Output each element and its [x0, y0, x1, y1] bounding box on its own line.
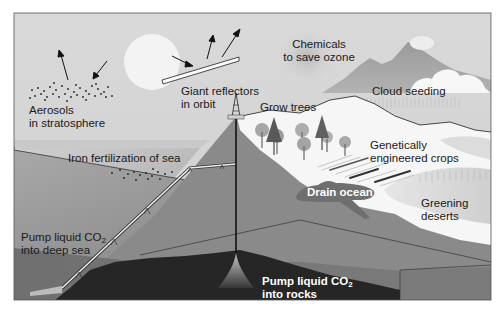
label-pump-rocks: Pump liquid CO2 into rocks: [262, 275, 353, 301]
label-pump-deep-sea: Pump liquid CO2 into deep sea: [21, 231, 106, 257]
label-ozone-chemicals: Chemicals to save ozone: [272, 38, 366, 64]
label-giant-reflectors: Giant reflectors in orbit: [181, 85, 259, 111]
label-greening-deserts: Greening deserts: [421, 197, 468, 223]
label-gm-crops: Genetically engineered crops: [370, 139, 459, 165]
label-grow-trees: Grow trees: [260, 101, 316, 114]
label-aerosols: Aerosols in stratosphere: [29, 104, 105, 130]
label-cloud-seeding: Cloud seeding: [372, 85, 446, 98]
label-drain-ocean: Drain ocean: [307, 186, 373, 199]
label-iron-fertilization: Iron fertilization of sea: [68, 152, 181, 165]
